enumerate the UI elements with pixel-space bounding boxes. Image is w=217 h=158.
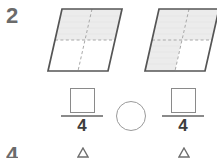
next-question-number-partial: 4	[6, 144, 18, 158]
next-row-caret-left-icon	[77, 147, 89, 158]
right-fraction-answer: 4	[161, 88, 205, 134]
right-parallelogram-figure	[141, 8, 217, 74]
right-denominator: 4	[161, 117, 205, 135]
next-row-caret-right-icon	[178, 147, 190, 158]
left-denominator: 4	[60, 117, 104, 135]
left-parallelogram-figure	[44, 8, 128, 74]
comparison-circle[interactable]	[116, 101, 146, 131]
left-fraction-answer: 4	[60, 88, 104, 134]
worksheet-problem-2: 2	[0, 0, 217, 158]
left-numerator-input[interactable]	[70, 88, 95, 113]
right-numerator-input[interactable]	[171, 88, 196, 113]
question-number: 2	[6, 5, 18, 27]
